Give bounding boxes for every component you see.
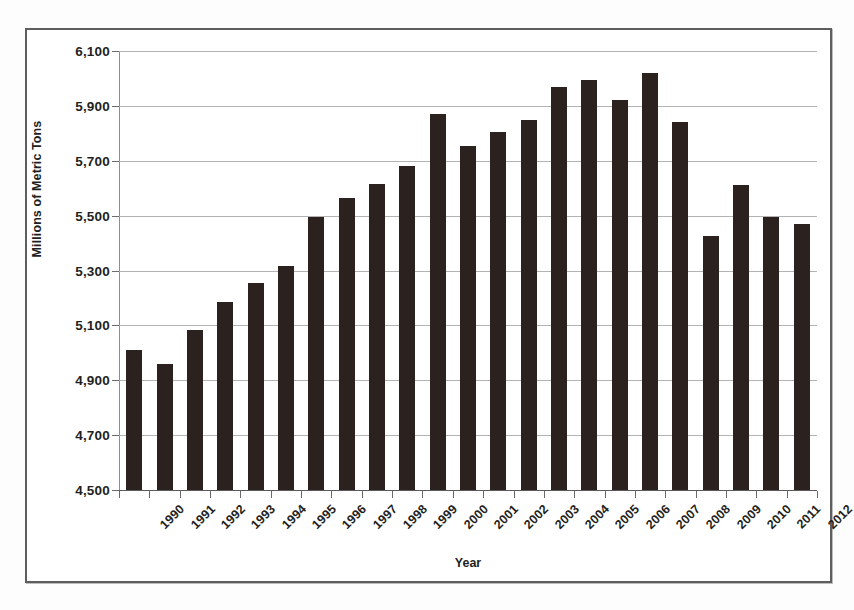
x-axis-tick bbox=[756, 491, 757, 498]
x-axis-tick-label: 2004 bbox=[582, 502, 612, 532]
y-axis-tick bbox=[112, 380, 119, 381]
x-axis-tick-label: 2009 bbox=[734, 502, 764, 532]
y-axis-tick bbox=[112, 106, 119, 107]
gridline bbox=[119, 51, 817, 52]
x-axis-tick bbox=[696, 491, 697, 498]
y-axis-tick bbox=[112, 216, 119, 217]
y-axis-tick bbox=[112, 161, 119, 162]
bar[interactable] bbox=[672, 122, 688, 490]
bar[interactable] bbox=[217, 302, 233, 490]
x-axis-tick bbox=[605, 491, 606, 498]
x-axis-tick bbox=[240, 491, 241, 498]
x-axis-tick bbox=[635, 491, 636, 498]
bar[interactable] bbox=[339, 198, 355, 490]
bar[interactable] bbox=[157, 364, 173, 490]
x-axis-tick bbox=[210, 491, 211, 498]
x-axis-tick bbox=[362, 491, 363, 498]
y-axis-tick bbox=[112, 490, 119, 491]
bar[interactable] bbox=[581, 80, 597, 490]
x-axis-tick-label: 2006 bbox=[643, 502, 673, 532]
bar[interactable] bbox=[248, 283, 264, 490]
x-axis-tick bbox=[787, 491, 788, 498]
x-axis-tick bbox=[331, 491, 332, 498]
y-axis-tick-label: 6,100 bbox=[75, 44, 110, 59]
bar[interactable] bbox=[430, 114, 446, 490]
y-axis-tick-label: 5,900 bbox=[75, 98, 110, 113]
y-axis-title: Millions of Metric Tons bbox=[30, 74, 44, 304]
bar[interactable] bbox=[703, 236, 719, 490]
bar[interactable] bbox=[187, 330, 203, 491]
x-axis-tick-label: 2007 bbox=[673, 502, 703, 532]
x-axis-tick bbox=[574, 491, 575, 498]
y-axis-tick-label: 5,700 bbox=[75, 153, 110, 168]
bar[interactable] bbox=[521, 120, 537, 490]
bar[interactable] bbox=[733, 185, 749, 490]
x-axis-tick bbox=[817, 491, 818, 498]
x-axis-tick bbox=[726, 491, 727, 498]
y-axis-tick-label: 5,100 bbox=[75, 318, 110, 333]
x-axis-tick bbox=[271, 491, 272, 498]
x-axis-tick-label: 1995 bbox=[309, 502, 339, 532]
x-axis-tick bbox=[544, 491, 545, 498]
x-axis-tick bbox=[514, 491, 515, 498]
x-axis-tick-label: 1996 bbox=[340, 502, 370, 532]
bar[interactable] bbox=[460, 146, 476, 490]
bar[interactable] bbox=[278, 266, 294, 490]
x-axis-tick bbox=[392, 491, 393, 498]
y-axis-tick bbox=[112, 51, 119, 52]
y-axis-tick bbox=[112, 435, 119, 436]
y-axis-tick bbox=[112, 271, 119, 272]
y-axis-tick-label: 4,500 bbox=[75, 483, 110, 498]
x-axis-tick-label: 2008 bbox=[704, 502, 734, 532]
bar[interactable] bbox=[308, 217, 324, 490]
bar[interactable] bbox=[794, 224, 810, 490]
x-axis-tick bbox=[119, 491, 120, 498]
bar[interactable] bbox=[612, 100, 628, 490]
x-axis-tick-label: 1990 bbox=[157, 502, 187, 532]
chart-page: Millions of Metric Tons 6,1005,9005,7005… bbox=[0, 0, 854, 610]
x-axis-tick-label: 2003 bbox=[552, 502, 582, 532]
bar[interactable] bbox=[551, 87, 567, 490]
x-axis-tick bbox=[665, 491, 666, 498]
x-axis-tick-label: 1993 bbox=[248, 502, 278, 532]
bar[interactable] bbox=[763, 217, 779, 490]
x-axis-tick-label: 2000 bbox=[461, 502, 491, 532]
x-axis-tick-label: 1997 bbox=[370, 502, 400, 532]
x-axis-ticks bbox=[119, 491, 817, 499]
y-axis-tick-label: 4,900 bbox=[75, 373, 110, 388]
x-axis-tick-label: 1998 bbox=[400, 502, 430, 532]
x-axis-tick-label: 2002 bbox=[522, 502, 552, 532]
x-axis-tick bbox=[180, 491, 181, 498]
y-axis-tick-label: 5,300 bbox=[75, 263, 110, 278]
x-axis-tick-label: 2005 bbox=[613, 502, 643, 532]
bar[interactable] bbox=[642, 73, 658, 490]
x-axis-tick-label: 1994 bbox=[279, 502, 309, 532]
x-axis-tick-label: 2001 bbox=[491, 502, 521, 532]
bar[interactable] bbox=[126, 350, 142, 490]
y-axis-tick-label: 4,700 bbox=[75, 428, 110, 443]
x-axis-tick-label: 2010 bbox=[764, 502, 794, 532]
y-axis-labels: 6,1005,9005,7005,5005,3005,1004,9004,700… bbox=[46, 51, 110, 490]
x-axis-tick bbox=[422, 491, 423, 498]
y-axis-tick-label: 5,500 bbox=[75, 208, 110, 223]
bar[interactable] bbox=[369, 184, 385, 490]
x-axis-tick bbox=[453, 491, 454, 498]
x-axis-tick-label: 1999 bbox=[431, 502, 461, 532]
gridline bbox=[119, 106, 817, 107]
plot-area bbox=[119, 51, 817, 490]
bar[interactable] bbox=[399, 166, 415, 490]
x-axis-tick-label: 1992 bbox=[218, 502, 248, 532]
x-axis-labels: 1990199119921993199419951996199719981999… bbox=[119, 502, 817, 562]
x-axis-tick bbox=[301, 491, 302, 498]
x-axis-tick bbox=[483, 491, 484, 498]
y-axis-tick bbox=[112, 325, 119, 326]
x-axis-tick bbox=[149, 491, 150, 498]
x-axis-tick-label: 1991 bbox=[188, 502, 218, 532]
bar[interactable] bbox=[490, 132, 506, 490]
x-axis-title: Year bbox=[119, 556, 817, 570]
